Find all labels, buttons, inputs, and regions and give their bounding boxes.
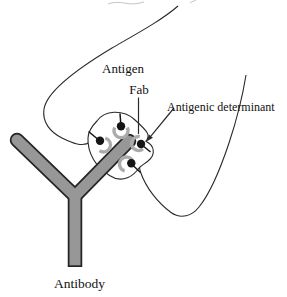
antigenic-determinant-label: Antigenic determinant (167, 100, 275, 114)
antigenic-determinant-dot (137, 140, 145, 148)
antibody-left-arm (17, 140, 75, 196)
diagram-canvas: Antigen Fab Antigenic determinant Antibo… (0, 0, 287, 297)
antibody-y-shape (17, 140, 129, 267)
antibody-antigen-diagram: Antigen Fab Antigenic determinant Antibo… (0, 0, 287, 297)
fab-label: Fab (129, 82, 149, 97)
antigenic-determinant-dot (127, 159, 135, 167)
antigen-membrane-curve-right (140, 75, 247, 216)
antibody-label: Antibody (54, 276, 105, 291)
cropped-remnant-mark (190, 1, 196, 4)
antigenic-determinant-dot (117, 122, 125, 130)
cropped-remnant-mark (108, 2, 144, 4)
antigen-label: Antigen (102, 61, 144, 76)
antigenic-determinant-dot (96, 137, 104, 145)
